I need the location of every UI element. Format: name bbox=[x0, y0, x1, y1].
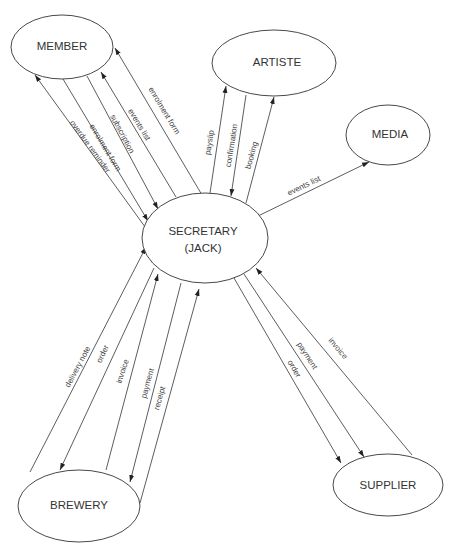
entity-label: MEDIA bbox=[372, 128, 409, 140]
entity-member: MEMBER bbox=[11, 15, 113, 79]
entity-brewery: BREWERY bbox=[18, 470, 140, 542]
flow-booking: booking bbox=[244, 97, 274, 203]
flow-label: order bbox=[95, 343, 111, 364]
flow-label: payment bbox=[139, 367, 156, 400]
flow-label: booking bbox=[244, 141, 260, 170]
flow-events-list-member: events list bbox=[101, 72, 176, 197]
entity-label: ARTISTE bbox=[253, 56, 302, 68]
entity-shape bbox=[142, 193, 268, 283]
flow-label: payslip bbox=[203, 129, 216, 156]
flow-payment-supplier: payment bbox=[244, 274, 364, 457]
flow-confirmation: confirmation bbox=[224, 95, 246, 196]
entity-label: MEMBER bbox=[37, 40, 87, 52]
entity-media: MEDIA bbox=[346, 105, 430, 165]
arrow-line bbox=[115, 48, 202, 195]
flow-events-list-media: events list bbox=[258, 162, 369, 216]
entity-secretary: SECRETARY (JACK) bbox=[142, 193, 268, 283]
flow-enrolment-form-out: enrolment form bbox=[115, 48, 202, 195]
arrow-line bbox=[30, 247, 146, 472]
entity-artiste: ARTISTE bbox=[212, 30, 336, 96]
flow-label: invoice bbox=[326, 336, 349, 361]
flow-label: invoice bbox=[114, 357, 130, 384]
flow-payslip: payslip bbox=[203, 86, 226, 193]
flow-delivery-note: delivery note bbox=[30, 247, 146, 472]
entity-label: SUPPLIER bbox=[360, 479, 417, 491]
flow-invoice-supplier: invoice bbox=[256, 268, 412, 455]
flow-label: confirmation bbox=[224, 123, 240, 167]
entity-label-line1: SECRETARY bbox=[168, 225, 238, 237]
flow-label: delivery note bbox=[63, 344, 93, 389]
context-diagram: overdue reminder enrolment form subscrip… bbox=[0, 0, 454, 543]
entity-label-line2: (JACK) bbox=[184, 242, 221, 254]
entity-supplier: SUPPLIER bbox=[333, 454, 443, 516]
flow-label: events list bbox=[286, 174, 323, 198]
entity-label: BREWERY bbox=[50, 499, 108, 511]
arrow-line bbox=[244, 274, 364, 457]
arrow-line bbox=[258, 162, 369, 216]
flow-label: order bbox=[286, 358, 303, 379]
arrow-line bbox=[256, 268, 412, 455]
arrow-line bbox=[101, 72, 176, 197]
